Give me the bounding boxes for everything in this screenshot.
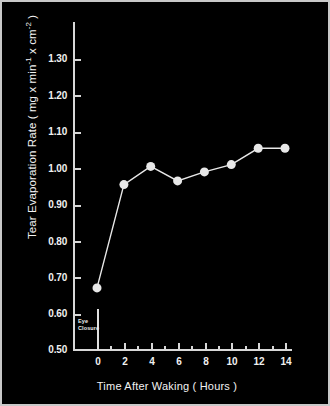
y-axis-title-text: Tear Evaporation Rate ( mg x min [26,65,38,240]
data-point [119,180,128,189]
data-point [281,144,290,153]
x-axis-title: Time After Waking ( Hours ) [2,380,330,392]
data-point [254,144,263,153]
data-point [146,162,155,171]
chart-figure: 1.30 1.20 1.10 1.00 0.90 0.80 0.70 0.60 … [2,2,328,404]
y-axis-title: Tear Evaporation Rate ( mg x min-1 x cm-… [24,12,38,242]
y-axis-title-sup2: -2 [24,22,33,29]
data-point [200,167,209,176]
figure-frame: 1.30 1.20 1.10 1.00 0.90 0.80 0.70 0.60 … [0,0,330,406]
y-axis-title-end: ) [26,15,38,22]
y-axis-title-sup1: -1 [24,57,33,64]
data-series-plot [2,2,330,406]
y-axis-title-mid: x cm [26,29,38,57]
data-point [93,283,102,292]
data-point [173,176,182,185]
data-point [227,160,236,169]
series-markers [93,144,290,293]
series-line [97,148,285,288]
